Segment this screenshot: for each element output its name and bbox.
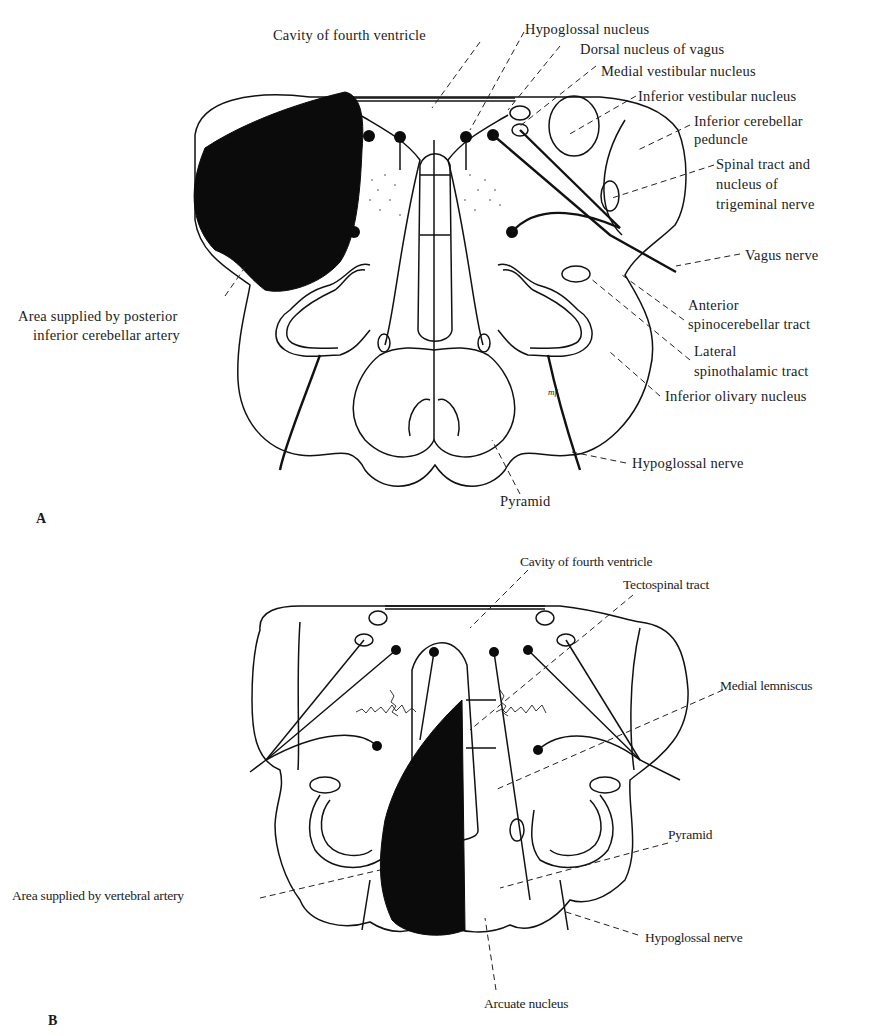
label-anterior-spinocerebellar-1: Anterior — [688, 297, 739, 314]
panel-b-section — [250, 570, 723, 990]
svg-text:mf: mf — [548, 387, 558, 397]
label-pyramid-b: Pyramid — [668, 826, 712, 843]
panel-label-a: A — [36, 511, 46, 527]
label-hypoglossal-nerve-b: Hypoglossal nerve — [645, 929, 742, 946]
label-vagus-nerve: Vagus nerve — [745, 247, 818, 264]
label-pyramid-a: Pyramid — [500, 493, 551, 510]
label-pica-area-1: Area supplied by posterior — [18, 308, 177, 325]
label-hypoglossal-nucleus: Hypoglossal nucleus — [525, 21, 649, 38]
label-inferior-olivary-nucleus: Inferior olivary nucleus — [665, 388, 807, 405]
label-cavity-fourth-ventricle-b: Cavity of fourth ventricle — [520, 553, 652, 570]
label-pica-area-2: inferior cerebellar artery — [33, 327, 180, 344]
label-vertebral-area: Area supplied by vertebral artery — [12, 887, 184, 904]
label-spinal-trigeminal-3: trigeminal nerve — [716, 196, 815, 213]
panel-label-b: B — [48, 1013, 57, 1029]
vertebral-territory — [380, 700, 465, 935]
label-inferior-cerebellar-peduncle-1: Inferior cerebellar — [694, 113, 803, 130]
label-anterior-spinocerebellar-2: spinocerebellar tract — [688, 316, 810, 333]
label-medial-vestibular-nucleus: Medial vestibular nucleus — [601, 63, 756, 80]
label-spinal-trigeminal-1: Spinal tract and — [716, 156, 810, 173]
label-inferior-cerebellar-peduncle-2: peduncle — [694, 131, 748, 148]
label-dorsal-nucleus-vagus: Dorsal nucleus of vagus — [580, 41, 724, 58]
label-inferior-vestibular-nucleus: Inferior vestibular nucleus — [638, 88, 796, 105]
label-lateral-spinothalamic-2: spinothalamic tract — [694, 363, 809, 380]
label-arcuate-nucleus: Arcuate nucleus — [484, 995, 568, 1012]
label-hypoglossal-nerve-a: Hypoglossal nerve — [632, 455, 744, 472]
label-spinal-trigeminal-2: nucleus of — [716, 176, 778, 193]
label-tectospinal-tract: Tectospinal tract — [623, 576, 709, 593]
label-cavity-fourth-ventricle: Cavity of fourth ventricle — [273, 27, 426, 44]
label-medial-lemniscus: Medial lemniscus — [720, 677, 812, 694]
label-lateral-spinothalamic-1: Lateral — [694, 343, 736, 360]
